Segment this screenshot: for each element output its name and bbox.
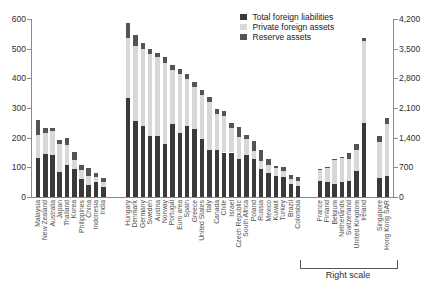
bar-segment-reserve-assets-australia (50, 128, 55, 131)
right-axis-tick-label: 700 (399, 163, 437, 172)
bar-segment-total-foreign-liabilities-hong-kong-sar (385, 176, 390, 197)
bar-segment-total-foreign-liabilities-spain (185, 126, 190, 197)
bar-segment-total-foreign-liabilities-mexico (266, 173, 271, 197)
left-axis-tick-label: 300 (0, 104, 26, 113)
bar-segment-private-foreign-assets-india (101, 182, 106, 186)
bar-segment-private-foreign-assets-canada (215, 114, 220, 150)
bar-segment-reserve-assets-netherlands (340, 157, 345, 158)
bar-segment-private-foreign-assets-thailand (65, 145, 70, 165)
bar-segment-private-foreign-assets-greece (192, 87, 197, 130)
right-axis-tick (394, 138, 398, 139)
bar-segment-reserve-assets-russia (259, 150, 264, 160)
bar-segment-reserve-assets-malaysia (36, 120, 41, 135)
bar-segment-reserve-assets-italy (207, 97, 212, 102)
bar-segment-reserve-assets-finland (325, 167, 330, 168)
bar-segment-private-foreign-assets-denmark (133, 46, 138, 121)
bar-segment-private-foreign-assets-brazil (289, 179, 294, 184)
bar-segment-private-foreign-assets-australia (50, 131, 55, 156)
bar-segment-private-foreign-assets-germany (141, 49, 146, 126)
bar-segment-total-foreign-liabilities-indonesia (94, 182, 99, 197)
bar-segment-total-foreign-liabilities-united-kingdom (354, 171, 359, 197)
bar-segment-total-foreign-liabilities-canada (215, 150, 220, 197)
bar-segment-private-foreign-assets-hungary (126, 38, 131, 97)
bar-segment-total-foreign-liabilities-italy (207, 150, 212, 197)
legend-label-private-assets: Private foreign assets (253, 22, 335, 32)
bar-segment-total-foreign-liabilities-switzerland (347, 181, 352, 197)
bar-segment-reserve-assets-euro-area (178, 69, 183, 74)
bar-segment-private-foreign-assets-turkey (281, 171, 286, 177)
bar-segment-private-foreign-assets-france (318, 170, 323, 181)
bar-segment-total-foreign-liabilities-netherlands (340, 182, 345, 197)
bar-segment-reserve-assets-kuwait (274, 166, 279, 168)
bar-segment-reserve-assets-thailand (65, 138, 70, 145)
left-axis-tick-label: 100 (0, 163, 26, 172)
legend: Total foreign liabilities Private foreig… (240, 12, 334, 42)
x-axis-label-india: India (99, 200, 107, 215)
bar-segment-reserve-assets-new-zealand (43, 128, 48, 132)
bar-segment-private-foreign-assets-switzerland (347, 159, 352, 180)
left-axis-tick-label: 200 (0, 133, 26, 142)
bar-segment-total-foreign-liabilities-israel (229, 153, 234, 198)
right-axis-tick-label: 2,800 (399, 74, 437, 83)
bar-segment-reserve-assets-greece (192, 82, 197, 87)
bar-segment-private-foreign-assets-spain (185, 79, 190, 126)
bar-segment-private-foreign-assets-united-states (200, 95, 205, 140)
bar-segment-reserve-assets-norway (163, 57, 168, 63)
right-axis-tick (394, 19, 398, 20)
x-axis-line (31, 197, 394, 198)
right-axis-tick-label: 1,400 (399, 133, 437, 142)
legend-item-private-assets: Private foreign assets (240, 22, 334, 32)
left-axis-tick (27, 167, 31, 168)
bar-segment-total-foreign-liabilities-austria (155, 136, 160, 197)
bar-segment-private-foreign-assets-russia (259, 161, 264, 170)
right-axis-tick-label: 0 (399, 193, 437, 202)
x-axis-label-hong-kong-sar: Hong Kong SAR (383, 200, 391, 250)
bar-segment-private-foreign-assets-hong-kong-sar (385, 124, 390, 175)
bar-segment-private-foreign-assets-colombia (296, 181, 301, 186)
x-axis-label-sweden: Sweden (146, 200, 154, 225)
bar-segment-total-foreign-liabilities-south-africa (244, 155, 249, 197)
bar-segment-private-foreign-assets-czech-republic (237, 137, 242, 159)
right-scale-bracket (300, 260, 398, 269)
legend-swatch-liabilities (240, 14, 247, 21)
bar-segment-private-foreign-assets-finland (325, 168, 330, 182)
bar-segment-total-foreign-liabilities-belgium (332, 184, 337, 197)
bar-segment-private-foreign-assets-philippines (79, 170, 84, 179)
legend-swatch-private-assets (240, 24, 247, 31)
bar-segment-private-foreign-assets-norway (163, 63, 168, 144)
bar-segment-private-foreign-assets-italy (207, 102, 212, 149)
bar-segment-total-foreign-liabilities-czech-republic (237, 159, 242, 197)
bar-segment-total-foreign-liabilities-japan (57, 172, 62, 197)
bar-segment-private-foreign-assets-united-kingdom (354, 150, 359, 170)
bar-segment-private-foreign-assets-china (86, 176, 91, 185)
bar-segment-private-foreign-assets-poland (252, 151, 257, 159)
bar-segment-private-foreign-assets-kuwait (274, 168, 279, 176)
left-axis-tick (27, 197, 31, 198)
left-axis-tick (27, 138, 31, 139)
bar-segment-reserve-assets-turkey (281, 167, 286, 171)
bar-segment-reserve-assets-chile (222, 111, 227, 116)
bar-segment-reserve-assets-germany (141, 43, 146, 50)
bar-segment-reserve-assets-hungary (126, 23, 131, 38)
bar-segment-private-foreign-assets-belgium (332, 160, 337, 184)
left-axis-tick-label: 500 (0, 44, 26, 53)
x-axis-label-colombia: Colombia (294, 200, 302, 229)
bar-segment-total-foreign-liabilities-germany (141, 126, 146, 197)
bar-segment-private-foreign-assets-chile (222, 116, 227, 153)
bar-segment-total-foreign-liabilities-finland (325, 182, 330, 197)
left-axis-tick-label: 400 (0, 74, 26, 83)
bar-segment-private-foreign-assets-ireland (362, 41, 367, 124)
bar-segment-total-foreign-liabilities-korea (72, 169, 77, 197)
left-axis-tick-label: 0 (0, 193, 26, 202)
right-axis-tick-label: 2,100 (399, 104, 437, 113)
right-axis-tick (394, 49, 398, 50)
bar-segment-total-foreign-liabilities-brazil (289, 184, 294, 197)
bar-segment-reserve-assets-colombia (296, 177, 301, 180)
bar-segment-total-foreign-liabilities-turkey (281, 177, 286, 197)
bar-segment-total-foreign-liabilities-new-zealand (43, 154, 48, 197)
bar-segment-total-foreign-liabilities-sweden (148, 136, 153, 197)
left-axis-tick (27, 108, 31, 109)
bar-segment-reserve-assets-ireland (362, 38, 367, 41)
bar-segment-private-foreign-assets-malaysia (36, 135, 41, 158)
bar-segment-private-foreign-assets-netherlands (340, 158, 345, 182)
